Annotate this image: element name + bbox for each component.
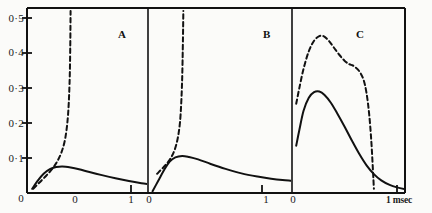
curve-solid-A [32,166,157,188]
ytick-label-0: 0 [0,192,24,204]
ytick-label-0-5: 0·5 [0,12,24,24]
ytick-label-0-4: 0·4 [0,46,24,58]
xtick-label-panel-a-1: 1 [121,193,141,205]
panel-c-curves [296,36,413,191]
panel-label-a: A [118,28,126,40]
panel-a-curves [32,11,157,189]
ytick-label-0-3: 0·3 [0,82,24,94]
panel-label-c: C [356,28,364,40]
curve-solid-C [296,91,413,190]
ytick-label-0-2: 0·2 [0,117,24,129]
curve-dashed-B [157,11,183,174]
curve-dashed-A [33,11,70,189]
ytick-label-0-1: 0·1 [0,152,24,164]
xtick-label-panel-b-0: 0 [139,193,159,205]
panel-label-b: B [263,28,271,40]
xtick-label-panel-a-0: 0 [65,193,85,205]
axis-unit-label: 1 msec [386,195,412,205]
figure-container: 0·5 0·4 0·3 0·2 0·1 0 0 1 0 1 0 1 msec A… [0,0,432,213]
curve-solid-B [153,156,291,191]
curve-dashed-C [296,36,374,189]
xtick-label-panel-b-1: 1 [256,193,276,205]
xtick-label-panel-c-0: 0 [283,193,303,205]
plot-canvas [0,0,432,213]
